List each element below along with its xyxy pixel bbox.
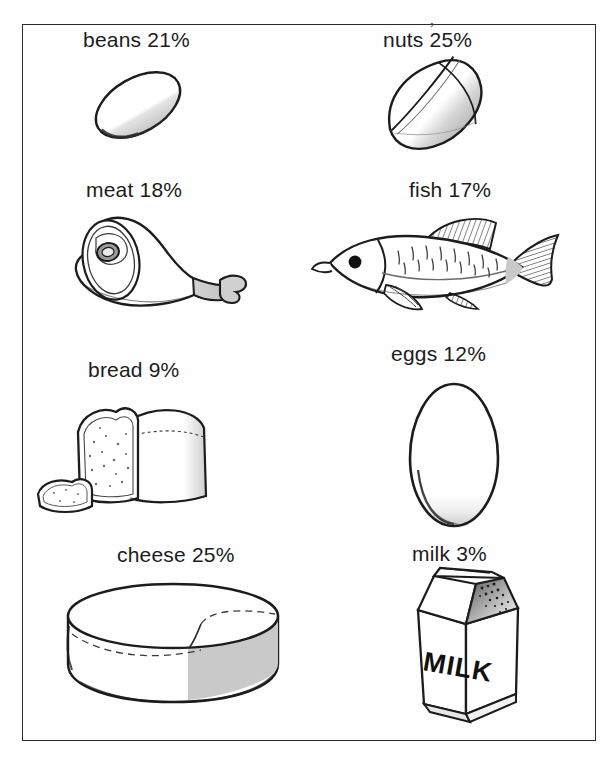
fish-icon bbox=[300, 205, 565, 317]
bean-icon bbox=[78, 58, 198, 153]
label-bread: bread 9% bbox=[88, 358, 180, 382]
label-cheese: cheese 25% bbox=[117, 543, 235, 567]
bread-loaf-icon bbox=[30, 398, 235, 523]
label-nuts: nuts 25% bbox=[383, 28, 472, 52]
label-eggs: eggs 12% bbox=[391, 342, 486, 366]
egg-icon bbox=[394, 378, 514, 533]
figure-page: beans 21% ’ nuts bbox=[0, 0, 606, 761]
label-fish: fish 17% bbox=[409, 178, 491, 202]
nut-icon bbox=[372, 55, 498, 153]
milk-carton-icon: MILK bbox=[400, 562, 545, 727]
ham-icon bbox=[56, 208, 261, 318]
cheese-wheel-icon bbox=[60, 578, 295, 708]
label-beans: beans 21% bbox=[83, 28, 190, 52]
label-meat: meat 18% bbox=[86, 178, 182, 202]
